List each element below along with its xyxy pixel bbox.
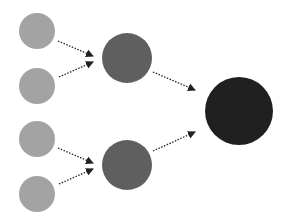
hidden-node-h2 [102,140,152,190]
edge-arrow-h2-to-out [153,132,195,151]
edge-arrow-in1-to-h1 [58,41,93,56]
input-node-in1 [19,13,55,49]
edge-arrow-h1-to-out [153,72,195,90]
diagram-canvas [0,0,295,221]
tree-diagram [0,0,295,221]
input-node-in3 [19,121,55,157]
output-node-out [205,77,273,145]
input-node-in2 [19,68,55,104]
hidden-node-h1 [102,33,152,83]
edge-arrow-in2-to-h1 [59,62,93,77]
edge-arrow-in4-to-h2 [59,169,93,184]
edge-arrow-in3-to-h2 [58,148,93,163]
input-node-in4 [19,176,55,212]
nodes-group [19,13,273,212]
